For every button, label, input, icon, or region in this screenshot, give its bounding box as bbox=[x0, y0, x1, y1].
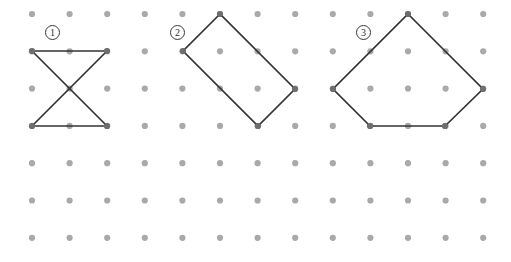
figure-3-vertex bbox=[367, 123, 373, 129]
figure-2-vertex bbox=[255, 123, 261, 129]
figure-3-vertex bbox=[442, 123, 448, 129]
figure-1-vertex bbox=[104, 123, 110, 129]
figure-3-pentagon bbox=[330, 11, 486, 129]
figure-3-vertex bbox=[405, 11, 411, 17]
figure-2-vertex bbox=[292, 86, 298, 92]
figure-2-vertex bbox=[217, 11, 223, 17]
figure-layer bbox=[0, 0, 511, 262]
figure-3-vertex bbox=[330, 86, 336, 92]
figure-1-vertex bbox=[104, 48, 110, 54]
figure-3-vertex bbox=[480, 86, 486, 92]
figure-1-vertex bbox=[29, 48, 35, 54]
figure-3-label: 3 bbox=[356, 25, 371, 40]
figure-2-label: 2 bbox=[170, 25, 185, 40]
figure-2-tilted-rectangle bbox=[180, 11, 298, 129]
figure-1-label: 1 bbox=[45, 25, 60, 40]
figure-2-outline bbox=[183, 14, 295, 126]
figure-2-vertex bbox=[180, 48, 186, 54]
geoboard-worksheet: 1 2 3 bbox=[0, 0, 511, 262]
figure-1-vertex bbox=[29, 123, 35, 129]
figure-1-bowtie-hourglass bbox=[29, 48, 110, 129]
